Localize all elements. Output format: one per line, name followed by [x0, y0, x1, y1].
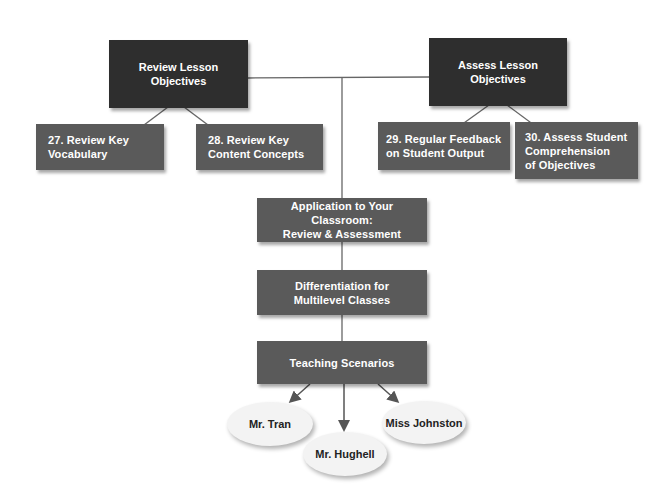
node-label: Assess Lesson Objectives [458, 58, 538, 86]
node-assess-lesson-objectives: Assess Lesson Objectives [429, 38, 567, 106]
node-28-review-key-content-concepts: 28. Review Key Content Concepts [196, 124, 323, 170]
node-label: Application to Your Classroom: Review & … [263, 199, 421, 241]
node-label: 30. Assess Student Comprehension of Obje… [525, 130, 627, 172]
diagram-canvas: Review Lesson Objectives Assess Lesson O… [0, 0, 668, 503]
node-29-regular-feedback: 29. Regular Feedback on Student Output [378, 122, 510, 170]
connector-lines [0, 0, 668, 503]
node-teaching-scenarios: Teaching Scenarios [257, 341, 427, 384]
arrow-to-mr-tran [291, 384, 310, 401]
connector-top-horizontal [248, 77, 429, 78]
node-label: Differentiation for Multilevel Classes [294, 279, 391, 307]
node-label: 29. Regular Feedback on Student Output [386, 132, 501, 160]
scenario-label: Mr. Tran [249, 418, 291, 430]
node-label: Teaching Scenarios [290, 356, 395, 370]
scenario-mr-tran: Mr. Tran [227, 402, 313, 446]
node-label: 28. Review Key Content Concepts [208, 133, 304, 161]
arrow-to-miss-johnston [378, 384, 397, 401]
scenario-mr-hughell: Mr. Hughell [303, 432, 387, 476]
node-27-review-key-vocabulary: 27. Review Key Vocabulary [36, 124, 164, 170]
node-application-to-your-classroom: Application to Your Classroom: Review & … [257, 198, 427, 242]
node-30-assess-student-comprehension: 30. Assess Student Comprehension of Obje… [515, 122, 638, 179]
node-label: 27. Review Key Vocabulary [48, 133, 129, 161]
node-differentiation: Differentiation for Multilevel Classes [257, 270, 427, 315]
node-label: Review Lesson Objectives [139, 60, 218, 88]
scenario-label: Mr. Hughell [315, 448, 374, 460]
scenario-miss-johnston: Miss Johnston [382, 401, 466, 444]
scenario-label: Miss Johnston [385, 417, 462, 429]
node-review-lesson-objectives: Review Lesson Objectives [109, 40, 248, 108]
